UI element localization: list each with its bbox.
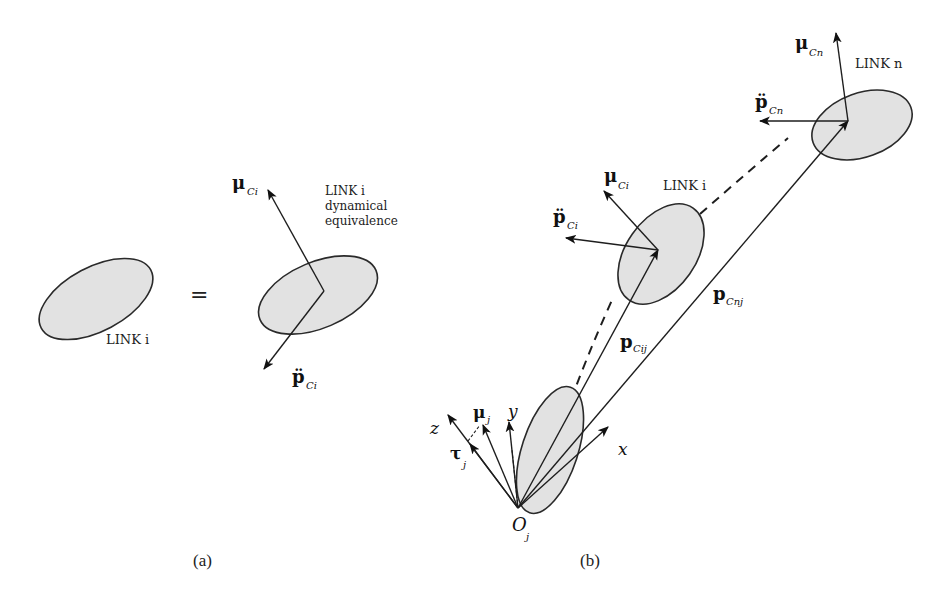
equivalence-label-line1: LINK i — [325, 184, 365, 198]
base-moment-label: μ — [473, 402, 485, 422]
origin-label: O — [512, 514, 527, 535]
position-cij-label: p — [620, 331, 633, 352]
axis-y-label: y — [507, 401, 518, 421]
caption-a: (a) — [193, 551, 212, 570]
equivalence-label-line2: dynamical — [325, 199, 387, 213]
link-n-acceleration-subscript: Cn — [769, 105, 783, 116]
torque-moment-projection — [468, 425, 480, 441]
link-n-body — [802, 77, 922, 173]
axis-z-label: z — [429, 418, 440, 438]
link-i-label: LINK i — [663, 178, 706, 193]
link-i-label: LINK i — [106, 332, 149, 347]
position-cij-subscript: Cij — [633, 343, 647, 354]
panel-b: μ Ci LINK i p̈ Ci μ Cn LINK n p̈ Cn p Ci… — [429, 32, 922, 570]
base-moment-arrow — [483, 425, 518, 508]
moment-subscript: Ci — [247, 186, 258, 197]
link-n-moment-label: μ — [795, 32, 808, 53]
link-n-acceleration-label: p̈ — [755, 91, 768, 112]
caption-b: (b) — [580, 551, 600, 570]
figure-canvas: LINK i = μ Ci LINK i dynamical equivalen… — [0, 0, 942, 613]
link-n-moment-subscript: Cn — [809, 47, 823, 58]
position-cnj-label: p — [713, 283, 726, 304]
acceleration-label: p̈ — [292, 366, 305, 387]
link-n-label: LINK n — [855, 56, 903, 71]
position-vector-cij — [518, 250, 658, 508]
position-cnj-subscript: Cnj — [726, 296, 743, 307]
acceleration-subscript: Ci — [306, 380, 317, 391]
base-torque-label: τ — [450, 443, 461, 463]
panel-a: LINK i = μ Ci LINK i dynamical equivalen… — [26, 172, 398, 570]
link-i-body — [600, 188, 722, 320]
link-i-moment-subscript: Ci — [618, 180, 629, 191]
link-chain-dashed-upper — [700, 138, 788, 214]
equivalence-label-line3: equivalence — [325, 214, 398, 228]
axis-x-label: x — [618, 439, 628, 459]
base-torque-subscript: j — [461, 459, 466, 470]
link-i-acceleration-label: p̈ — [553, 206, 566, 227]
link-i-equivalent-body — [247, 240, 389, 350]
equals-sign: = — [190, 282, 208, 307]
base-moment-subscript: j — [485, 414, 490, 425]
moment-label: μ — [232, 172, 245, 193]
base-torque-arrow — [470, 444, 518, 508]
link-i-moment-label: μ — [604, 165, 617, 186]
link-i-acceleration-subscript: Ci — [567, 220, 578, 231]
